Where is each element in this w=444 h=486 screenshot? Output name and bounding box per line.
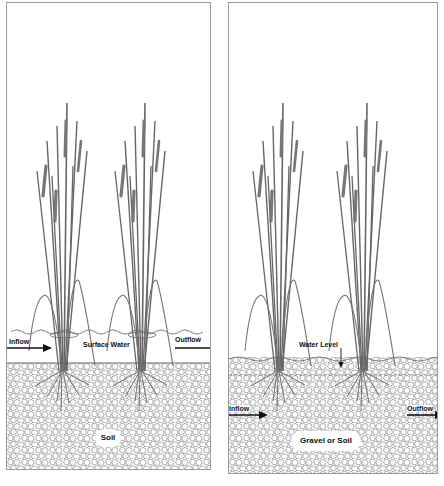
soil-layer [7,363,210,469]
outflow-label: Outflow [407,405,433,412]
surface-flow-illustration [7,3,210,469]
water-surface [11,330,203,334]
inflow-label: Inflow [229,405,249,412]
outflow-arrow [175,344,210,352]
water-level-label: Water Level [299,341,338,348]
inflow-label: Inflow [9,338,29,345]
soil-label: Soil [95,429,121,447]
subsurface-flow-panel: Water Level Inflow Outflow Gravel or Soi… [228,2,438,474]
surface-flow-panel: Inflow Outflow Surface Water Soil [6,2,211,470]
gravel-or-soil-label: Gravel or Soil [291,431,361,451]
outflow-label: Outflow [175,336,201,343]
subsurface-flow-illustration [229,3,437,473]
surface-water-label: Surface Water [83,341,130,348]
